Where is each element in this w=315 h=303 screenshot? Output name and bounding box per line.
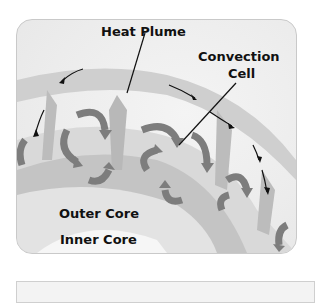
heat-plume-label: Heat Plume bbox=[101, 24, 186, 39]
convection-cell-label-line1: Convection bbox=[198, 49, 280, 64]
outer-core-label: Outer Core bbox=[59, 206, 139, 221]
inner-core-label: Inner Core bbox=[60, 232, 137, 247]
plume-shape bbox=[257, 170, 275, 235]
convection-cell-label-line2: Cell bbox=[228, 66, 255, 81]
caption-panel bbox=[16, 281, 315, 303]
diagram-frame: Heat Plume Convection Cell Outer Core In… bbox=[16, 19, 297, 254]
